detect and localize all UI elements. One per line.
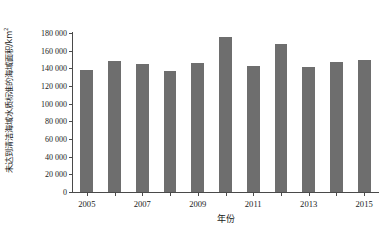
x-tick-mark [281,192,282,196]
y-tick-label: 60 000 [45,135,67,144]
y-axis-title-superscript: 2 [3,27,9,30]
x-tick-label: 2005 [78,199,95,209]
bar [247,66,260,192]
bar [219,37,232,192]
y-axis-title-text: 未达到清洁海域水质标准的海域面积/km [4,31,14,173]
y-tick-label: 120 000 [41,82,67,91]
bar [108,61,121,192]
plot-area: 020 00040 00060 00080 000100 000120 0001… [73,33,378,192]
y-tick-label: 180 000 [41,29,67,38]
bar [164,71,177,192]
x-tick-mark [115,192,116,196]
bar [136,64,149,192]
x-tick-mark [142,192,143,196]
bar [302,67,315,192]
bar [80,70,93,192]
y-tick-mark [69,139,73,140]
y-tick-mark [69,68,73,69]
y-tick-label: 100 000 [41,99,67,108]
x-tick-mark [226,192,227,196]
x-tick-mark [170,192,171,196]
bar-chart: 未达到清洁海域水质标准的海域面积/km2 020 00040 00060 000… [0,0,385,234]
x-tick-mark [309,192,310,196]
y-tick-label: 140 000 [41,64,67,73]
y-tick-mark [69,121,73,122]
bar [358,60,371,193]
x-tick-label: 2009 [189,199,206,209]
x-tick-mark [87,192,88,196]
y-tick-label: 40 000 [45,152,67,161]
x-tick-label: 2007 [134,199,151,209]
y-tick-mark [69,104,73,105]
y-tick-label: 0 [63,188,67,197]
y-tick-label: 80 000 [45,117,67,126]
x-tick-mark [253,192,254,196]
y-tick-mark [69,174,73,175]
x-tick-mark [198,192,199,196]
x-tick-label: 2015 [356,199,373,209]
x-tick-mark [336,192,337,196]
y-axis-title: 未达到清洁海域水质标准的海域面积/km2 [0,0,16,200]
y-tick-mark [69,33,73,34]
x-tick-label: 2013 [300,199,317,209]
y-tick-mark [69,192,73,193]
bar [275,44,288,192]
x-axis-title: 年份 [73,212,378,225]
y-tick-mark [69,51,73,52]
x-tick-mark [364,192,365,196]
y-tick-label: 160 000 [41,46,67,55]
y-tick-label: 20 000 [45,170,67,179]
y-tick-mark [69,157,73,158]
bar [330,62,343,192]
y-tick-mark [69,86,73,87]
bar [191,63,204,192]
x-tick-label: 2011 [245,199,262,209]
